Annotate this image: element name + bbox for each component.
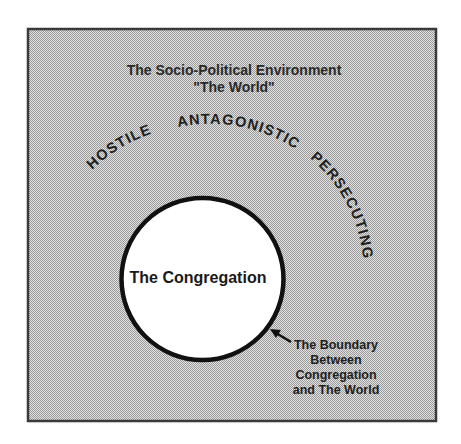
title-line-2: "The World"	[193, 79, 274, 95]
boundary-label-line-4: and The World	[293, 383, 380, 397]
congregation-label: The Congregation	[130, 269, 267, 286]
boundary-label-line-1: The Boundary	[294, 338, 378, 352]
boundary-label-line-3: Congregation	[295, 368, 376, 382]
diagram-canvas: The Socio-Political Environment "The Wor…	[0, 0, 461, 444]
boundary-label-line-2: Between	[310, 353, 361, 367]
title-line-1: The Socio-Political Environment	[127, 62, 342, 78]
